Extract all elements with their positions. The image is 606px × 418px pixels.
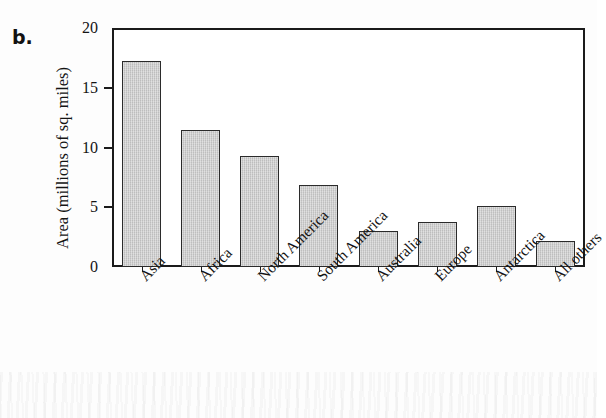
x-axis-tick [319, 267, 320, 272]
x-axis-category-label: Africa [195, 244, 236, 285]
y-axis-tick [104, 147, 113, 149]
x-axis-tick [201, 267, 202, 272]
x-axis-tick [437, 267, 438, 272]
x-axis-category-label: Europe [431, 240, 475, 284]
x-axis-tick [142, 267, 143, 272]
x-axis-tick [555, 267, 556, 272]
x-axis-tick [496, 267, 497, 272]
x-axis-category-label: Antarctica [490, 226, 548, 284]
x-axis-tick [260, 267, 261, 272]
y-axis-tick [104, 87, 113, 89]
x-axis-tick [378, 267, 379, 272]
x-axis-category-label: All others [549, 228, 605, 284]
x-axis-category-label: Australia [372, 232, 425, 285]
x-axis-category-label: Asia [136, 252, 169, 285]
y-axis-tick [104, 206, 113, 208]
